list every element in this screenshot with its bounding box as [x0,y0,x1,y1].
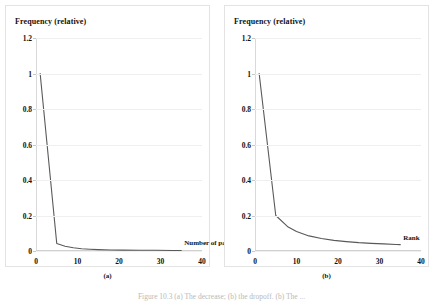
y-tick-mark-b-6 [252,38,255,39]
gridline-a-0 [36,251,202,252]
figure-container: Frequency (relative) Number of papers 00… [0,0,443,301]
gridline-a-6 [36,38,202,39]
chart-panel-a-wrapper: Frequency (relative) Number of papers 00… [5,0,219,272]
y-tick-label-a-5: 1 [28,69,32,78]
y-tick-mark-a-2 [33,180,36,181]
chart-a-subcaption: (a) [5,272,210,280]
gridline-a-4 [36,109,202,110]
y-tick-mark-b-5 [252,74,255,75]
gridline-b-3 [255,145,421,146]
chart-b-subcaption: (b) [224,272,429,280]
y-tick-label-b-3: 0.6 [242,140,251,149]
y-tick-label-a-4: 0.8 [23,105,32,114]
gridline-b-1 [255,216,421,217]
x-tick-label-b-2: 20 [334,257,342,266]
chart-b-title: Frequency (relative) [234,17,305,26]
gridline-a-5 [36,74,202,75]
y-tick-label-b-1: 0.2 [242,211,251,220]
y-tick-mark-a-3 [33,145,36,146]
gridline-a-3 [36,145,202,146]
y-tick-label-b-0: 0 [247,247,251,256]
gridline-b-4 [255,109,421,110]
gridline-a-2 [36,180,202,181]
x-tick-label-b-4: 40 [417,257,425,266]
chart-a-title: Frequency (relative) [15,17,86,26]
gridline-b-5 [255,74,421,75]
chart-b-plot-area: Rank 00.20.40.60.811.2010203040 [255,38,421,251]
x-tick-label-a-2: 20 [115,257,123,266]
y-tick-label-a-0: 0 [28,247,32,256]
gridline-b-6 [255,38,421,39]
y-tick-label-a-2: 0.4 [23,176,32,185]
y-tick-mark-a-4 [33,109,36,110]
gridline-a-1 [36,216,202,217]
y-tick-mark-a-6 [33,38,36,39]
chart-panel-b: Frequency (relative) Rank 00.20.40.60.81… [224,5,429,267]
y-tick-label-a-6: 1.2 [23,34,32,43]
x-tick-label-a-1: 10 [74,257,82,266]
x-tick-label-a-4: 40 [198,257,206,266]
y-tick-label-b-4: 0.8 [242,105,251,114]
chart-panel-b-wrapper: Frequency (relative) Rank 00.20.40.60.81… [224,0,438,272]
y-tick-mark-a-5 [33,74,36,75]
y-tick-label-b-2: 0.4 [242,176,251,185]
y-tick-mark-b-2 [252,180,255,181]
y-tick-mark-a-1 [33,216,36,217]
x-tick-label-a-0: 0 [34,257,38,266]
y-tick-label-b-6: 1.2 [242,34,251,43]
x-tick-label-b-0: 0 [253,257,257,266]
chart-panels: Frequency (relative) Number of papers 00… [0,0,443,272]
gridline-b-0 [255,251,421,252]
series-line-b [259,74,400,245]
gridline-b-2 [255,180,421,181]
y-tick-mark-b-1 [252,216,255,217]
y-tick-mark-b-0 [252,251,255,252]
chart-panel-a: Frequency (relative) Number of papers 00… [5,5,210,267]
y-tick-mark-b-4 [252,109,255,110]
y-tick-label-a-3: 0.6 [23,140,32,149]
figure-caption: Figure 10.3 (a) The decrease; (b) the dr… [0,292,443,301]
chart-b-xlabel: Rank [403,234,419,242]
chart-a-plot-area: Number of papers 00.20.40.60.811.2010203… [36,38,202,251]
series-line-a [40,74,181,251]
y-tick-label-b-5: 1 [247,69,251,78]
x-tick-label-b-3: 30 [376,257,384,266]
x-tick-label-b-1: 10 [293,257,301,266]
x-tick-label-a-3: 30 [157,257,165,266]
y-tick-mark-b-3 [252,145,255,146]
y-tick-mark-a-0 [33,251,36,252]
y-tick-label-a-1: 0.2 [23,211,32,220]
